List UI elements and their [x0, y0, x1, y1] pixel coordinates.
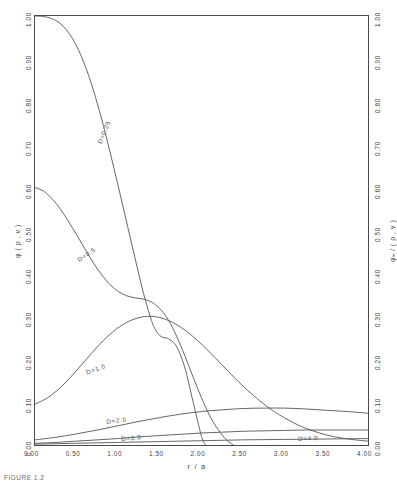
y-tick-label-right-0: 0.00	[374, 441, 381, 456]
y-tick-label-right-1: 0.10	[374, 398, 381, 413]
x-tick-label-3: 1.50	[149, 450, 164, 457]
y-axis-right-title: φₕ / ( ρ , ν )	[389, 220, 397, 262]
y-tick-label-right-7: 0.70	[374, 141, 381, 156]
curve-label-d-3-0: D=3.0	[121, 433, 142, 442]
x-tick-label-7: 3.50	[315, 450, 330, 457]
y-tick-label-left-6: 0.60	[25, 184, 32, 199]
y-tick-label-right-2: 0.20	[374, 355, 381, 370]
y-tick-label-right-4: 0.40	[374, 270, 381, 285]
x-tick-label-6: 3.00	[274, 450, 289, 457]
y-tick-label-left-2: 0.20	[25, 355, 32, 370]
curves-layer	[35, 16, 368, 445]
y-tick-label-left-9: 0.90	[25, 55, 32, 70]
y-tick-label-right-8: 0.80	[374, 98, 381, 113]
curve-d-1-0	[35, 316, 368, 441]
x-tick-label-1: 0.50	[66, 450, 81, 457]
y-tick-label-right-3: 0.30	[374, 312, 381, 327]
curve-d-0-5	[35, 188, 233, 445]
y-tick-label-right-9: 0.90	[374, 55, 381, 70]
curve-d-0-25	[35, 16, 206, 445]
plot-area	[34, 15, 369, 446]
y-tick-label-right-6: 0.60	[374, 184, 381, 199]
y-tick-label-left-3: 0.30	[25, 312, 32, 327]
x-tick-label-0: 0.00	[24, 450, 39, 457]
y-tick-label-left-8: 0.80	[25, 98, 32, 113]
y-tick-label-left-10: 1.00	[25, 12, 32, 27]
x-tick-label-4: 2.00	[191, 450, 206, 457]
x-tick-label-2: 1.00	[107, 450, 122, 457]
y-tick-label-left-1: 0.10	[25, 398, 32, 413]
y-tick-label-right-10: 1.00	[374, 12, 381, 27]
x-axis-title: r / a	[0, 462, 394, 471]
y-tick-label-left-7: 0.70	[25, 141, 32, 156]
y-tick-label-right-5: 0.50	[374, 227, 381, 242]
x-tick-label-5: 2.50	[232, 450, 247, 457]
curve-label-d-4-0: D=4.0	[298, 433, 319, 441]
figure-caption: FIGURE 1.2	[4, 474, 44, 481]
y-tick-label-left-5: 0.50	[25, 227, 32, 242]
y-tick-label-left-4: 0.40	[25, 270, 32, 285]
y-axis-left-title: φ ( ρ , ν )	[14, 224, 21, 258]
x-tick-label-8: 4.00	[357, 450, 372, 457]
